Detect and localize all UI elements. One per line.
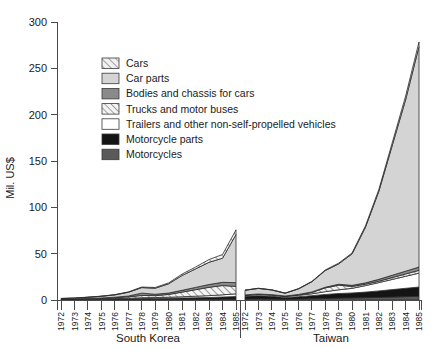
panel-title-south-korea: South Korea (116, 332, 181, 344)
plot-area-taiwan (245, 42, 419, 300)
legend-label: Car parts (126, 72, 169, 84)
chart-legend: CarsCar partsBodies and chassis for cars… (102, 57, 336, 160)
x-tick-label: 1975 (97, 312, 107, 331)
y-tick-label: 50 (35, 248, 47, 260)
x-tick-label: 1973 (70, 312, 80, 331)
x-tick-label: 1972 (56, 312, 66, 331)
y-tick-label: 200 (29, 109, 47, 121)
y-tick-label: 100 (29, 201, 47, 213)
x-tick-label: 1974 (83, 312, 93, 331)
area-series-car-parts (245, 47, 419, 296)
chart-svg: Mil. US$ 300 250 200 150 100 50 0 (0, 0, 439, 349)
y-tick-label: 150 (29, 155, 47, 167)
y-tick-label: 0 (41, 294, 47, 306)
x-tick-label: 1983 (387, 312, 397, 331)
x-tick-label: 1976 (294, 312, 304, 331)
legend-label: Motorcycles (126, 148, 182, 160)
x-tick-label: 1980 (347, 312, 357, 331)
x-tick-label: 1978 (321, 312, 331, 331)
x-tick-label: 1977 (124, 312, 134, 331)
y-tick-group: 300 250 200 150 100 50 0 (29, 16, 57, 306)
x-axis-south-korea: 1972197319741975197619771978197919801981… (56, 300, 241, 331)
legend-swatch-motorcycle-parts (102, 134, 119, 145)
legend-swatch-car-parts (102, 73, 119, 84)
x-tick-label: 1972 (240, 312, 250, 331)
x-tick-label: 1979 (150, 312, 160, 331)
legend-swatch-trailers-and-other-non-self-propelled-vehicles (102, 119, 119, 130)
legend-label: Cars (126, 57, 148, 69)
x-tick-label: 1977 (307, 312, 317, 331)
y-axis-label-text: Mil. US$ (4, 157, 16, 199)
x-tick-label: 1984 (218, 312, 228, 331)
legend-label: Trailers and other non-self-propelled ve… (126, 118, 336, 130)
x-tick-label: 1984 (401, 312, 411, 331)
plot-area-south-korea (61, 230, 236, 300)
legend-swatch-bodies-and-chassis-for-cars (102, 88, 119, 99)
x-axis-taiwan: 1972197319741975197619771978197919801981… (240, 300, 424, 331)
legend-swatch-motorcycles (102, 149, 119, 160)
x-tick-label: 1974 (267, 312, 277, 331)
legend-label: Bodies and chassis for cars (126, 87, 254, 99)
x-tick-label: 1981 (177, 312, 187, 331)
x-tick-label: 1976 (110, 312, 120, 331)
chart-figure: Mil. US$ 300 250 200 150 100 50 0 (0, 0, 439, 349)
x-tick-label: 1980 (164, 312, 174, 331)
x-tick-label: 1975 (280, 312, 290, 331)
x-tick-label: 1973 (254, 312, 264, 331)
x-tick-label: 1978 (137, 312, 147, 331)
x-tick-label: 1982 (191, 312, 201, 331)
x-tick-label: 1982 (374, 312, 384, 331)
x-tick-label: 1981 (361, 312, 371, 331)
y-tick-label: 300 (29, 16, 47, 28)
x-tick-label: 1983 (204, 312, 214, 331)
y-tick-label: 250 (29, 62, 47, 74)
legend-swatch-trucks-and-motor-buses (102, 104, 119, 115)
panel-title-taiwan: Taiwan (313, 332, 349, 344)
y-axis-label: Mil. US$ (4, 157, 16, 199)
legend-label: Trucks and motor buses (126, 103, 238, 115)
legend-label: Motorcycle parts (126, 133, 203, 145)
x-tick-label: 1985 (414, 312, 424, 331)
x-tick-label: 1979 (334, 312, 344, 331)
legend-swatch-cars (102, 58, 119, 69)
y-axis: 300 250 200 150 100 50 0 (29, 16, 57, 306)
